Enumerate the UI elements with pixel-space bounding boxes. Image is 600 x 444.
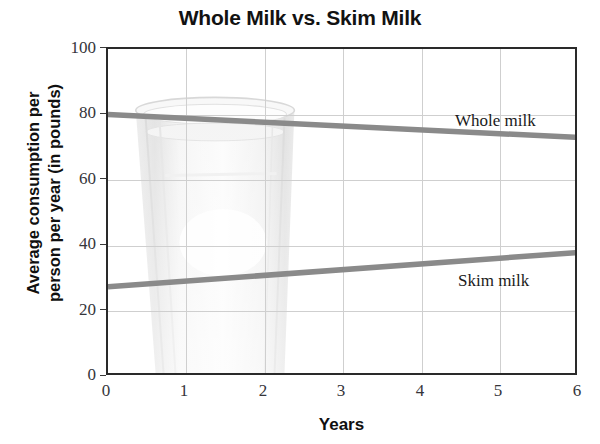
- x-tick-label-3: 3: [326, 381, 356, 401]
- x-tick-label-2: 2: [248, 381, 278, 401]
- y-tick-label-100: 100: [52, 38, 96, 58]
- x-tick-label-1: 1: [169, 381, 199, 401]
- x-tick-label-5: 5: [483, 381, 513, 401]
- x-tick-label-6: 6: [562, 381, 592, 401]
- y-axis-title: Average consumption per person per year …: [23, 43, 65, 343]
- x-axis-title: Years: [106, 415, 577, 435]
- plot-area: [106, 47, 577, 375]
- y-tick-mark-0: [100, 375, 106, 376]
- y-tick-label-80: 80: [52, 103, 96, 123]
- series-label-whole-milk: Whole milk: [455, 111, 536, 131]
- chart-figure: Whole Milk vs. Skim Milk Average consump…: [0, 0, 600, 444]
- series-label-skim-milk: Skim milk: [458, 271, 529, 291]
- y-tick-label-40: 40: [52, 234, 96, 254]
- y-tick-label-20: 20: [52, 300, 96, 320]
- series-lines: [108, 49, 577, 375]
- chart-title: Whole Milk vs. Skim Milk: [0, 6, 600, 30]
- x-tick-label-4: 4: [405, 381, 435, 401]
- x-tick-label-0: 0: [91, 381, 121, 401]
- y-tick-label-60: 60: [52, 169, 96, 189]
- y-tick-label-0: 0: [52, 365, 96, 385]
